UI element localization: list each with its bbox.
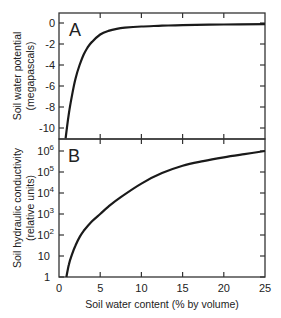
panel-b-frame bbox=[59, 139, 265, 277]
y-tick-label-a: -6 bbox=[45, 80, 55, 92]
panel-a-label: A bbox=[69, 20, 81, 40]
x-tick-label: 25 bbox=[259, 282, 271, 294]
y-tick-label-b: 10 bbox=[38, 250, 50, 262]
x-tick-label: 20 bbox=[218, 282, 230, 294]
y-tick-label-a: 0 bbox=[49, 17, 55, 29]
y-tick-label-a: -2 bbox=[45, 38, 55, 50]
panel-b-ylabel: Soil hydraulic conductivity bbox=[11, 147, 23, 268]
y-tick-label-b: 106 bbox=[37, 143, 54, 157]
soil-water-chart: 0-2-4-6-8-10 A Soil water potential (meg… bbox=[0, 0, 281, 318]
y-tick-label-a: -4 bbox=[45, 59, 55, 71]
y-tick-label-a: -8 bbox=[45, 101, 55, 113]
y-tick-label-b: 103 bbox=[37, 206, 54, 220]
panel-b-curve bbox=[66, 151, 265, 277]
panel-a-ylabel-units: (megapascals) bbox=[24, 42, 36, 111]
panel-b: 110102103104105106 B Soil hydraulic cond… bbox=[11, 139, 265, 283]
y-tick-label-b: 1 bbox=[44, 271, 50, 283]
y-tick-label-a: -10 bbox=[39, 122, 55, 134]
x-axis-ticks: 0510152025 bbox=[56, 272, 271, 294]
x-tick-label: 10 bbox=[135, 282, 147, 294]
x-tick-label: 0 bbox=[56, 282, 62, 294]
x-axis-label: Soil water content (% by volume) bbox=[85, 298, 238, 310]
panel-b-label: B bbox=[68, 146, 80, 166]
panel-a: 0-2-4-6-8-10 A Soil water potential (meg… bbox=[11, 13, 265, 144]
y-tick-label-b: 105 bbox=[37, 164, 54, 178]
panel-b-ylabel-units: (relative units) bbox=[24, 175, 36, 241]
x-tick-label: 5 bbox=[97, 282, 103, 294]
y-tick-label-b: 102 bbox=[37, 227, 54, 241]
y-tick-label-b: 104 bbox=[37, 185, 54, 199]
panel-a-ylabel: Soil water potential bbox=[11, 32, 23, 121]
panel-a-frame bbox=[59, 13, 265, 139]
panel-a-curve bbox=[66, 24, 265, 138]
x-tick-label: 15 bbox=[176, 282, 188, 294]
